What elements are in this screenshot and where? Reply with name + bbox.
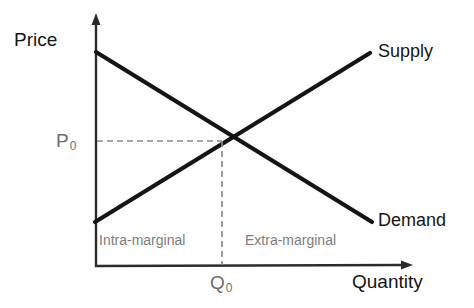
y-axis-label: Price [14, 30, 57, 49]
y-axis-arrowhead [92, 13, 101, 25]
equilibrium-quantity-label: Q0 [210, 273, 231, 292]
equilibrium-quantity-subscript: 0 [226, 281, 233, 295]
supply-demand-diagram: Price Quantity Supply Demand P0 Q0 Intra… [0, 0, 474, 308]
demand-curve-label: Demand [378, 211, 446, 229]
x-axis-label: Quantity [352, 272, 423, 291]
equilibrium-price-label: P0 [56, 131, 75, 150]
x-axis-line [95, 265, 404, 266]
intra-marginal-region-label: Intra-marginal [99, 233, 185, 247]
equilibrium-price-symbol: P [56, 130, 69, 151]
equilibrium-price-subscript: 0 [70, 139, 77, 153]
supply-curve-label: Supply [378, 42, 433, 60]
x-axis-arrowhead [401, 261, 413, 270]
extra-marginal-region-label: Extra-marginal [245, 233, 336, 247]
equilibrium-quantity-symbol: Q [210, 272, 225, 293]
